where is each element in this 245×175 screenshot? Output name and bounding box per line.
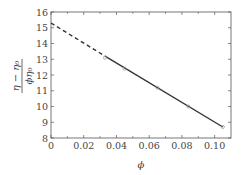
y-tick-label: 14 bbox=[36, 38, 48, 49]
y-tick-label: 10 bbox=[36, 101, 48, 112]
x-tick-label: 0.10 bbox=[204, 140, 225, 151]
y-axis-label-denominator: ϕη₀ bbox=[23, 68, 34, 85]
y-tick-label: 8 bbox=[42, 133, 48, 144]
x-tick-label: 0.04 bbox=[106, 140, 127, 151]
x-axis-label: ϕ bbox=[138, 159, 145, 170]
fit-line bbox=[105, 56, 223, 127]
plot-frame bbox=[51, 12, 231, 138]
x-axis: 00.020.040.060.080.10 bbox=[48, 12, 225, 151]
y-tick-label: 13 bbox=[36, 54, 48, 65]
series-group bbox=[51, 23, 224, 129]
y-tick-label: 15 bbox=[36, 22, 48, 33]
x-tick-label: 0.06 bbox=[139, 140, 160, 151]
x-tick-label: 0 bbox=[48, 140, 54, 151]
y-axis-label: η − η₀ ϕη₀ bbox=[10, 59, 34, 93]
x-tick-label: 0.08 bbox=[171, 140, 192, 151]
y-tick-label: 11 bbox=[36, 85, 48, 96]
y-tick-label: 16 bbox=[36, 7, 48, 18]
y-tick-label: 9 bbox=[42, 117, 48, 128]
x-tick-label: 0.02 bbox=[73, 140, 94, 151]
chart: 00.020.040.060.080.10 8910111213141516 ϕ… bbox=[0, 0, 245, 175]
y-axis-label-numerator: η − η₀ bbox=[10, 61, 21, 92]
extrapolated-fit-line bbox=[51, 23, 105, 56]
plot-border bbox=[51, 12, 231, 138]
y-axis: 8910111213141516 bbox=[36, 7, 231, 144]
y-tick-label: 12 bbox=[36, 70, 48, 81]
